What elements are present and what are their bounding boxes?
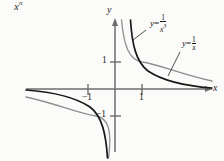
leader-line-reciprocal-cubed	[133, 30, 146, 40]
fraction-denominator: x	[192, 43, 196, 52]
fraction-denominator-cubed: x3	[160, 21, 166, 34]
y-axis-label: y	[107, 4, 111, 15]
x-axis-label: x	[213, 82, 217, 93]
y-tick-label-positive-one: 1	[102, 55, 107, 65]
fraction-reciprocal: 1x	[192, 36, 196, 52]
curve-label-eq-cubed: =	[154, 18, 159, 28]
curve-label-eq: =	[186, 38, 191, 48]
x-tick-label-negative-one: −1	[82, 92, 92, 102]
graph-canvas	[0, 0, 224, 161]
curve-reciprocal-quadrant-3	[26, 97, 110, 158]
y-axis-arrow-icon	[112, 18, 118, 26]
denominator-exponent-cubed: 3	[163, 23, 166, 29]
curve-label-reciprocal-cubed: y=1x3	[150, 14, 166, 34]
x-tick-label-positive-one: 1	[139, 92, 144, 102]
function-graph-figure: xn y x 1 −1 1 −1 y=1x3 y=1x	[0, 0, 224, 161]
fraction-numerator: 1	[192, 36, 196, 43]
fraction-numerator-cubed: 1	[160, 14, 166, 21]
curve-label-reciprocal: y=1x	[182, 36, 196, 52]
fraction-reciprocal-cubed: 1x3	[160, 14, 166, 34]
y-tick-label-negative-one: −1	[96, 109, 106, 119]
